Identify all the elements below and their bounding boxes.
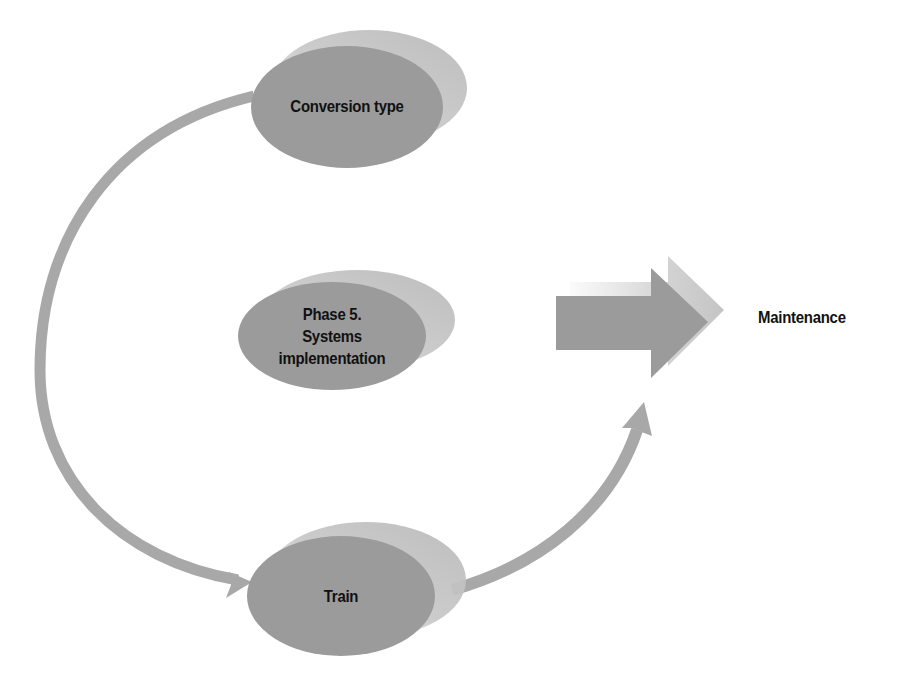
node-label-train: Train: [258, 582, 423, 612]
phase-line-3: implementation: [279, 348, 386, 370]
block-arrow: [556, 256, 724, 378]
phase-line-2: Systems: [302, 326, 362, 348]
phase-line-1: Phase 5.: [303, 304, 362, 326]
node-label-conversion-type: Conversion type: [261, 92, 433, 122]
outcome-label-maintenance: Maintenance: [758, 308, 846, 328]
connector-train-to-maintenance: [452, 402, 652, 590]
connector-conversion-to-train: [40, 96, 254, 598]
node-label-phase-5: Phase 5. Systems implementation: [248, 304, 417, 370]
diagram-canvas: [0, 0, 918, 684]
